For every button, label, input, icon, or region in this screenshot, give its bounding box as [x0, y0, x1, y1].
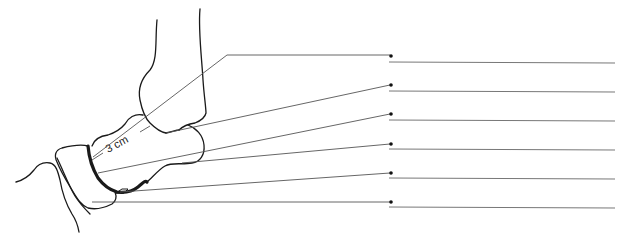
anatomy-diagram: 3 cm: [0, 0, 626, 235]
upper-bone-left-contour: [139, 20, 166, 133]
answer-line-1[interactable]: [389, 62, 615, 63]
leader-lines: [92, 55, 390, 202]
label-dot-4: [389, 142, 393, 146]
answer-line-2[interactable]: [389, 91, 615, 92]
bone-outlines: [16, 9, 206, 232]
label-dot-2: [389, 83, 393, 87]
label-dot-5: [389, 171, 393, 175]
label-dot-3: [389, 112, 393, 116]
label-dots: [389, 54, 393, 204]
soft-tissue-contour: [16, 163, 79, 232]
measurement-annotation: 3 cm: [92, 126, 150, 160]
answer-lines: [389, 62, 615, 208]
leader-line-5: [120, 173, 390, 192]
upper-bone-right-contour: [179, 9, 206, 130]
label-dot-6: [389, 200, 393, 204]
leader-line-2: [166, 85, 390, 133]
answer-line-3[interactable]: [389, 120, 615, 121]
lower-bone-inner-contour: [57, 158, 90, 214]
answer-line-5[interactable]: [389, 178, 615, 179]
measurement-label: 3 cm: [103, 133, 130, 155]
measurement-line-upper: [140, 126, 150, 132]
label-dot-1: [389, 54, 393, 58]
leader-line-3: [98, 114, 390, 173]
leader-line-4: [182, 144, 390, 163]
leader-line-1: [93, 55, 390, 157]
answer-line-6[interactable]: [389, 207, 615, 208]
answer-line-4[interactable]: [389, 149, 615, 150]
